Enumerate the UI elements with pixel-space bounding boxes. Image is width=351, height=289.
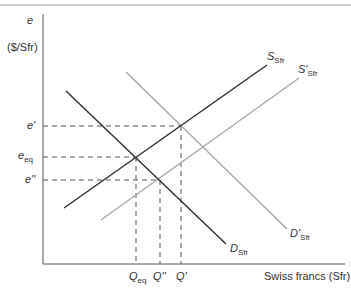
y-axis-units: ($/Sfr) xyxy=(7,41,38,53)
label-supply-sub: Sfr xyxy=(274,56,284,65)
tick-q-prime: Q' xyxy=(176,270,187,282)
tick-e-prime: e' xyxy=(27,119,35,131)
label-demand-sub: Sfr xyxy=(238,248,248,257)
tick-q-eq: Qeq xyxy=(129,270,146,285)
label-demand-main: D xyxy=(230,242,238,254)
label-demand-shifted: D'Sfr xyxy=(290,227,310,242)
tick-q-eq-sub: eq xyxy=(138,276,147,285)
tick-e-eq-sub: eq xyxy=(24,155,33,164)
label-supply-shifted: S'Sfr xyxy=(298,63,318,78)
tick-q-dprime: Q'' xyxy=(153,270,166,282)
y-axis-symbol: e xyxy=(27,14,33,26)
tick-q-eq-main: Q xyxy=(129,270,138,282)
tick-e-eq: eeq xyxy=(18,149,33,164)
x-axis-label: Swiss francs (Sfr) xyxy=(264,270,350,282)
label-supply-shifted-sub: Sfr xyxy=(307,69,317,78)
fx-diagram xyxy=(0,0,351,289)
label-demand: DSfr xyxy=(230,242,248,257)
label-demand-shifted-sub: Sfr xyxy=(300,233,310,242)
label-supply: SSfr xyxy=(267,50,285,65)
supply-curve-shifted xyxy=(101,78,299,220)
tick-e-dprime: e'' xyxy=(25,173,35,185)
demand-curve xyxy=(66,91,226,244)
demand-curve-shifted xyxy=(126,72,287,229)
label-demand-shifted-main: D' xyxy=(290,227,300,239)
